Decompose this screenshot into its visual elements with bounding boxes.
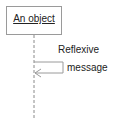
diagram-canvas [0, 0, 114, 120]
message-label-line1: Reflexive [58, 44, 99, 55]
message-label-line2: message [67, 62, 108, 73]
